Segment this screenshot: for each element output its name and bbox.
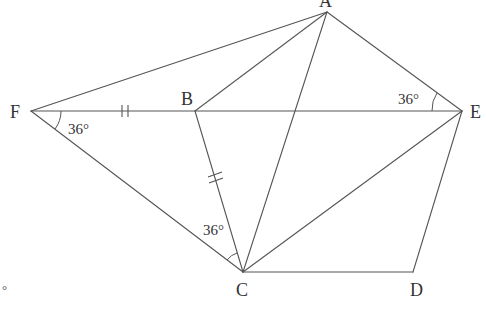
segment-AB [195,12,327,111]
point-label-F: F [10,102,20,122]
angle-arc-C [227,253,237,260]
stray-degree-mark: ° [2,282,7,297]
angle-label-E: 36° [398,91,419,107]
segment-CE [243,111,462,272]
point-label-E: E [470,102,481,122]
point-label-D: D [410,280,423,300]
angle-label-F: 36° [68,121,89,137]
point-label-C: C [236,280,248,300]
segment-AE [327,12,462,111]
segment-FA [31,12,327,111]
segment-FC [31,111,243,272]
segment-BC [195,111,243,272]
angle-label-C: 36° [203,222,224,238]
point-label-B: B [181,89,193,109]
segment-AC [243,12,327,272]
angle-arc-F [55,111,61,129]
geometry-figure: A B C D E F 36° 36° 36° ° [0,0,486,309]
point-label-A: A [319,0,332,11]
angle-arc-E [432,93,437,111]
segment-DE [413,111,462,272]
